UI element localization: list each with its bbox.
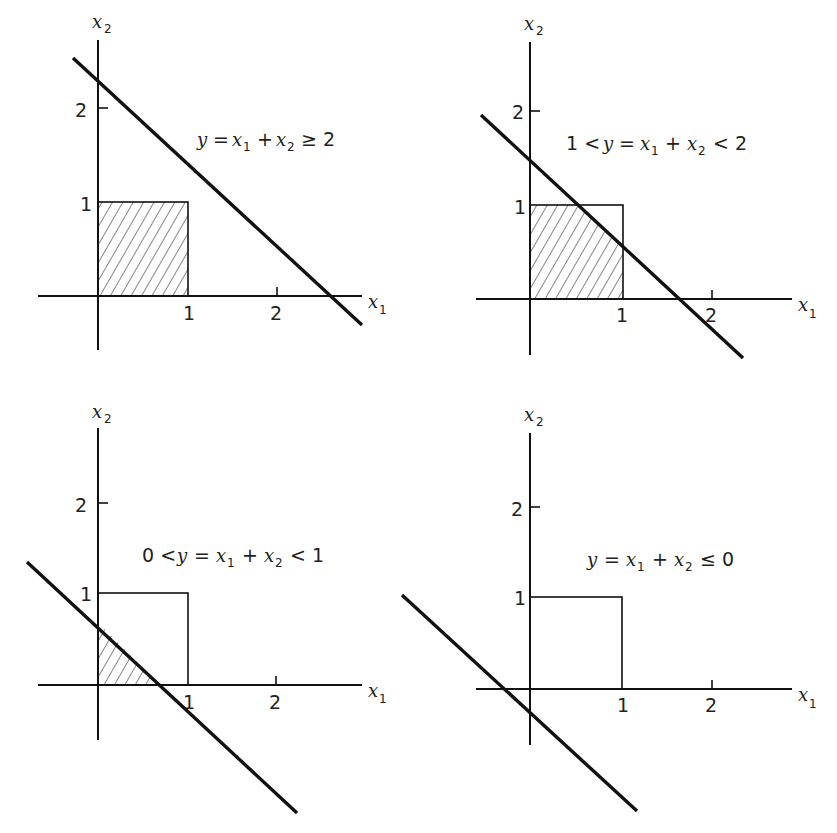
y-axis-label-sub: 2 <box>104 412 112 426</box>
svg-text:2: 2 <box>698 144 706 158</box>
x-tick-label-1: 1 <box>616 304 628 326</box>
x-tick-label-1: 1 <box>183 691 195 713</box>
svg-text:+: + <box>665 132 681 154</box>
svg-text:+: + <box>257 128 273 150</box>
unit-square <box>530 597 622 689</box>
equation-label: 0 < y = x 1 + x 2 < 1 <box>142 544 324 570</box>
svg-text:+: + <box>242 544 258 566</box>
x-axis-label: x <box>798 684 808 705</box>
x-tick-label-1: 1 <box>617 694 629 716</box>
x-tick-label-1: 1 <box>183 302 195 324</box>
svg-text:1: 1 <box>651 144 659 158</box>
svg-text:=: = <box>213 128 229 150</box>
svg-text:+: + <box>652 548 668 570</box>
y-tick-label-2: 2 <box>75 99 87 121</box>
y-tick-label-2: 2 <box>512 101 524 123</box>
panel-2: 2 1 1 2 x 2 x 1 1 < y = x 1 + x 2 < 2 <box>476 13 817 358</box>
svg-text:1: 1 <box>227 556 235 570</box>
svg-text:< 1: < 1 <box>290 544 324 566</box>
y-axis-label-sub: 2 <box>104 22 112 36</box>
equation-label: 1 < y = x 1 + x 2 < 2 <box>566 132 747 158</box>
x-axis-label-sub: 1 <box>379 303 387 317</box>
y-axis-label: x <box>524 13 534 34</box>
panel-3: 2 1 1 2 x 2 x 1 0 < y = x 1 + x 2 < 1 <box>27 401 387 813</box>
y-tick-label-1: 1 <box>80 193 92 215</box>
x-tick-label-2: 2 <box>269 691 281 713</box>
svg-text:2: 2 <box>287 140 295 154</box>
y-tick-label-1: 1 <box>80 583 92 605</box>
y-axis-label: x <box>524 404 534 425</box>
svg-text:≤ 0: ≤ 0 <box>700 548 734 570</box>
figure-canvas: 2 1 1 2 x 2 x 1 y = x 1 + x 2 ≥ 2 2 1 1 … <box>0 0 837 833</box>
svg-text:x: x <box>640 133 650 154</box>
x-tick-label-2: 2 <box>270 302 282 324</box>
equation-label: y = x 1 + x 2 ≥ 2 <box>196 128 335 154</box>
svg-text:=: = <box>604 548 620 570</box>
y-axis-label: x <box>92 401 102 422</box>
svg-text:1: 1 <box>243 140 251 154</box>
svg-text:x: x <box>232 129 242 150</box>
svg-text:y: y <box>586 549 598 570</box>
svg-text:=: = <box>619 132 635 154</box>
svg-text:< 2: < 2 <box>713 132 747 154</box>
level-line <box>402 595 637 811</box>
y-tick-label-1: 1 <box>514 587 526 609</box>
svg-text:x: x <box>626 549 636 570</box>
level-line <box>27 562 297 813</box>
shaded-region <box>530 205 623 299</box>
x-tick-label-2: 2 <box>705 304 717 326</box>
svg-text:y: y <box>602 133 614 154</box>
y-tick-label-2: 2 <box>511 498 523 520</box>
x-axis-label: x <box>798 294 808 315</box>
svg-text:x: x <box>674 549 684 570</box>
svg-text:y: y <box>176 545 188 566</box>
svg-text:y: y <box>196 129 208 150</box>
svg-text:0 <: 0 < <box>142 544 176 566</box>
svg-text:x: x <box>687 133 697 154</box>
svg-text:x: x <box>264 545 274 566</box>
x-axis-label-sub: 1 <box>809 307 817 321</box>
svg-text:2: 2 <box>685 560 693 574</box>
panel-1: 2 1 1 2 x 2 x 1 y = x 1 + x 2 ≥ 2 <box>38 11 387 350</box>
svg-text:1: 1 <box>637 560 645 574</box>
y-axis-label-sub: 2 <box>536 24 544 38</box>
shaded-region <box>98 202 188 296</box>
svg-text:x: x <box>216 545 226 566</box>
svg-text:2: 2 <box>275 556 283 570</box>
x-axis-label-sub: 1 <box>809 697 817 711</box>
panel-4: 2 1 1 2 x 2 x 1 y = x 1 + x 2 ≤ 0 <box>402 404 817 811</box>
y-tick-label-2: 2 <box>75 494 87 516</box>
x-tick-label-2: 2 <box>705 694 717 716</box>
x-axis-label: x <box>368 291 378 312</box>
svg-text:x: x <box>276 129 286 150</box>
equation-label: y = x 1 + x 2 ≤ 0 <box>586 548 734 574</box>
svg-text:≥ 2: ≥ 2 <box>301 128 335 150</box>
x-axis-label: x <box>368 680 378 701</box>
svg-text:1 <: 1 < <box>566 132 600 154</box>
y-axis-label-sub: 2 <box>536 415 544 429</box>
x-axis-label-sub: 1 <box>379 692 387 706</box>
svg-text:=: = <box>194 544 210 566</box>
y-axis-label: x <box>92 11 102 32</box>
y-tick-label-1: 1 <box>514 196 526 218</box>
